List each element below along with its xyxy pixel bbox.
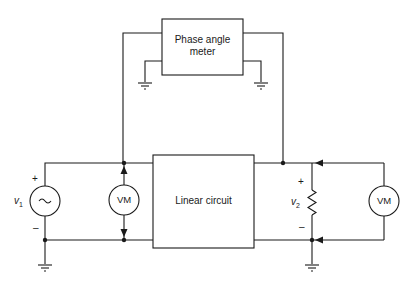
circuit-diagram: Phase angle meter Linear circuit VM VM +…	[0, 0, 420, 289]
right-voltmeter-label: VM	[369, 195, 399, 206]
left-voltmeter-label: VM	[109, 194, 139, 205]
v2-label: v2	[291, 196, 300, 209]
ground-symbols	[38, 83, 319, 271]
v2-plus-sign: +	[298, 176, 304, 187]
v2-minus-sign: –	[299, 221, 305, 232]
phase-meter-label: Phase angle meter	[162, 34, 243, 58]
v1-label: v1	[14, 195, 23, 208]
linear-circuit-label: Linear circuit	[153, 195, 254, 207]
v1-minus-sign: –	[33, 222, 39, 233]
v1-plus-sign: +	[32, 173, 38, 184]
